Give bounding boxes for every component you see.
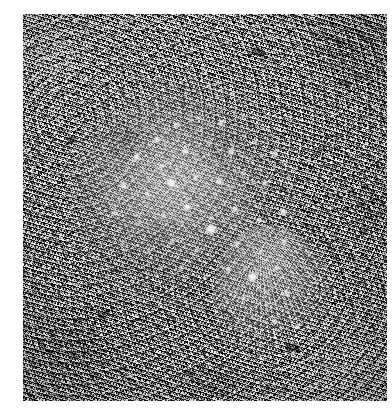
photograph <box>23 14 387 401</box>
photographic-grain <box>23 14 387 401</box>
screenshot-canvas <box>0 0 392 408</box>
caption-area <box>23 401 387 408</box>
